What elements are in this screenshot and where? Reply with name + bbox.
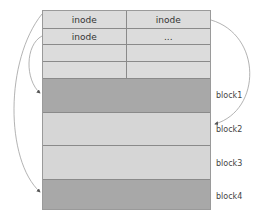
inode-cell-empty	[43, 45, 127, 61]
inode-row-1: inode inode	[43, 11, 210, 29]
block-2-label: block2	[216, 125, 242, 134]
block-3-label: block3	[216, 159, 242, 168]
inode-row-2: inode ...	[43, 29, 210, 45]
inode-cell-empty	[43, 62, 127, 78]
block-1-label: block1	[216, 91, 242, 100]
inode-cell-empty	[127, 62, 211, 78]
arrow-inode-to-block2	[211, 20, 250, 124]
block-1	[43, 79, 210, 113]
arrow-inode-to-block1	[29, 36, 42, 93]
block-2	[43, 113, 210, 146]
block-4	[43, 180, 210, 209]
arrow-inode-to-block4	[14, 14, 42, 192]
inode-cell: inode	[43, 11, 127, 28]
inode-cell: inode	[127, 11, 211, 28]
inode-cell-ellipsis: ...	[127, 29, 211, 44]
inode-row-4	[43, 62, 210, 79]
inode-cell: inode	[43, 29, 127, 44]
inode-row-3	[43, 45, 210, 62]
inode-cell-empty	[127, 45, 211, 61]
block-3	[43, 146, 210, 180]
block-4-label: block4	[216, 192, 242, 201]
disk-layout: inode inode inode ...	[42, 10, 211, 210]
